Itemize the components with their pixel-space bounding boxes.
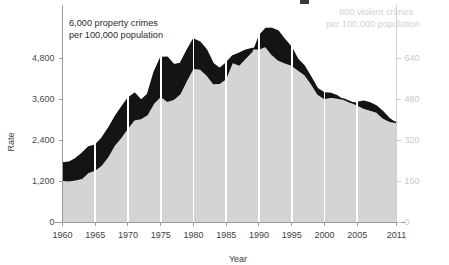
x-axis-tick-label: 1965 — [85, 230, 105, 240]
right-axis-tick-labels: 0160320480640 — [405, 53, 420, 227]
x-axis-tick-label: 1980 — [183, 230, 203, 240]
crime-rate-chart: 01,2002,4003,6004,800 0160320480640 1960… — [0, 0, 449, 265]
x-axis-tick-label: 1975 — [151, 230, 171, 240]
y-axis-tick-label: 2,400 — [32, 135, 55, 145]
x-axis-tick-label: 1960 — [52, 230, 72, 240]
y-axis-tick-label: 4,800 — [32, 53, 55, 63]
top-artifact — [300, 0, 309, 4]
y-axis-right-tick-label: 160 — [405, 176, 420, 186]
left-annotation-line2: per 100,000 population — [69, 30, 163, 40]
y-axis-tick-label: 0 — [49, 217, 54, 227]
x-axis-tick-label: 1995 — [282, 230, 302, 240]
x-axis-tick-label: 1985 — [216, 230, 236, 240]
x-axis-title: Year — [229, 254, 247, 264]
x-axis-tick-label: 1970 — [118, 230, 138, 240]
right-annotation-line2: per 100,000 population — [326, 19, 420, 29]
y-axis-right-tick-label: 320 — [405, 135, 420, 145]
y-axis-right-tick-label: 480 — [405, 94, 420, 104]
y-axis-tick-label: 1,200 — [32, 176, 55, 186]
chart-canvas: 01,2002,4003,6004,800 0160320480640 1960… — [0, 0, 449, 265]
x-axis-tick-label: 2000 — [314, 230, 334, 240]
x-axis-tick-label: 2005 — [347, 230, 367, 240]
left-axis-tick-labels: 01,2002,4003,6004,800 — [32, 53, 55, 227]
x-axis-tick-label: 2011 — [387, 230, 406, 240]
right-annotation-line1: 800 violent crimes — [339, 7, 413, 17]
y-axis-tick-label: 3,600 — [32, 94, 55, 104]
x-axis-tick-labels: 1960196519701975198019851990199520002005… — [52, 230, 406, 240]
y-axis-right-tick-label: 0 — [405, 217, 410, 227]
x-axis-tick-label: 1990 — [249, 230, 269, 240]
y-axis-right-tick-label: 640 — [405, 53, 420, 63]
y-axis-title: Rate — [6, 132, 16, 151]
plot-content — [63, 11, 397, 222]
left-annotation-line1: 6,000 property crimes — [69, 18, 158, 28]
